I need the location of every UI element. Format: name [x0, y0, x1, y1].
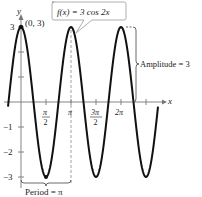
y-tick-minus-1: −1 — [3, 122, 13, 132]
svg-text:π: π — [43, 108, 48, 117]
function-callout: f(x) = 3 cos 2x — [52, 2, 126, 33]
period-brace — [21, 180, 71, 186]
callout-text: f(x) = 3 cos 2x — [57, 7, 110, 17]
x-tick-3pi-over-2: 3π 2 — [90, 108, 102, 127]
point-0-3 — [19, 25, 23, 29]
svg-text:2: 2 — [94, 118, 98, 127]
trough-point — [44, 175, 48, 179]
y-axis-label: y — [16, 6, 21, 16]
amplitude-label: Amplitude = 3 — [140, 59, 190, 69]
period-label: Period = π — [25, 187, 63, 197]
point-label: (0, 3) — [25, 18, 45, 28]
axes — [4, 14, 167, 188]
x-tick-2pi: 2π — [115, 108, 124, 117]
y-tick-minus-2: −2 — [3, 147, 13, 157]
x-axis-label: x — [167, 96, 172, 106]
y-tick-3: 3 — [10, 22, 15, 32]
x-tick-pi-over-2: π 2 — [42, 108, 50, 127]
y-tick-minus-3: −3 — [3, 172, 13, 182]
svg-text:2: 2 — [44, 118, 48, 127]
cosine-graph: y x 3 −1 −2 −3 π 2 π 3π 2 2π (0, 3) f(x)… — [0, 0, 202, 197]
x-tick-pi: π — [68, 108, 73, 117]
svg-text:3π: 3π — [90, 108, 100, 117]
x-axis-arrow — [162, 100, 167, 105]
